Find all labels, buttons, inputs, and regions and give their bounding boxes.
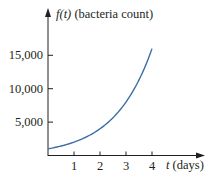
y-tick-label: 15,000 <box>9 48 43 62</box>
y-tick-label: 5,000 <box>15 115 43 129</box>
x-axis-label-unit: (days) <box>169 158 203 172</box>
y-tick-label: 10,000 <box>9 82 43 96</box>
x-tick-label: 4 <box>149 159 156 173</box>
x-tick-label: 3 <box>123 159 129 173</box>
y-axis-label-unit: (bacteria count) <box>71 7 153 21</box>
x-axis-label: t (days) <box>166 158 204 172</box>
x-tick-label: 2 <box>97 159 103 173</box>
y-axis-label-var: f(t) <box>56 7 71 21</box>
data-series-curve <box>48 49 152 149</box>
y-ticks: 5,00010,00015,000 <box>9 48 53 129</box>
chart: 5,00010,00015,000 1234 f(t) (bacteria co… <box>0 0 212 181</box>
y-axis-label: f(t) (bacteria count) <box>56 7 153 21</box>
y-axis-arrow-icon <box>45 8 51 17</box>
x-tick-label: 1 <box>71 159 77 173</box>
x-ticks: 1234 <box>71 152 156 173</box>
